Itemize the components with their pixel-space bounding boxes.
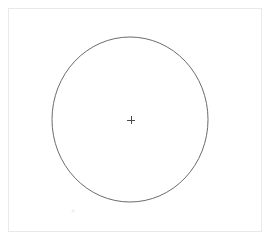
center-crosshair[interactable] <box>127 116 135 124</box>
app-root <box>0 0 272 244</box>
drawing-surface[interactable] <box>0 0 272 244</box>
faint-speck <box>71 209 74 212</box>
